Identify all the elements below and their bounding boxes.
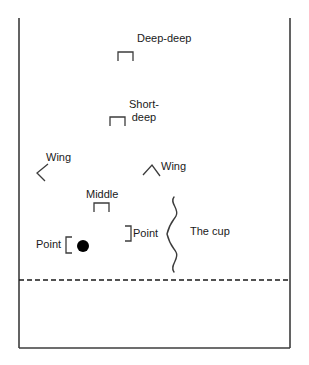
lacrosse-formation-diagram: Deep-deep Short- deep Wing Wing Middle P… [0, 0, 309, 365]
label-wing-right: Wing [161, 160, 186, 173]
point-right-position-marker-icon [125, 226, 131, 241]
wing-left-position-marker-icon [37, 164, 48, 181]
label-point-left: Point [36, 238, 61, 251]
deep-deep-position-marker-icon [118, 52, 133, 61]
label-wing-left: Wing [46, 151, 71, 164]
label-point-right: Point [133, 227, 158, 240]
label-middle: Middle [86, 188, 118, 201]
diagram-vector-layer [0, 0, 309, 365]
wing-right-position-marker-icon [143, 165, 160, 176]
point-left-position-marker-icon [66, 237, 72, 253]
label-short-deep: Short- deep [129, 98, 159, 124]
label-the-cup: The cup [190, 225, 230, 238]
ball-marker-icon [77, 240, 89, 252]
short-deep-position-marker-icon [110, 117, 125, 126]
label-deep-deep: Deep-deep [137, 32, 191, 45]
the-cup-brace-icon [167, 197, 177, 272]
middle-position-marker-icon [94, 203, 109, 212]
